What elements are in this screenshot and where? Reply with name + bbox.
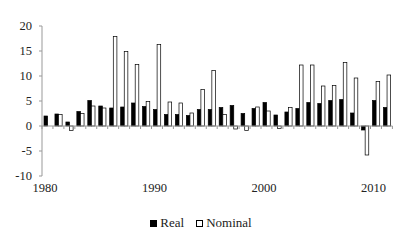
bar-real [307,103,311,127]
x-tick-label: 1980 [33,181,58,195]
bar-real [154,110,158,127]
x-tick-label: 1990 [142,181,167,195]
y-tick-label: 5 [26,94,32,108]
bar-real [99,106,103,126]
bar-real [230,106,234,127]
bar-nominal [124,52,128,127]
y-tick-label: 10 [20,69,33,83]
bar-nominal [135,65,139,127]
legend-label-real: Real [160,215,184,231]
bar-nominal [289,108,293,127]
bar-real [175,115,179,127]
legend-item-nominal: Nominal [196,215,252,231]
bar-nominal [223,115,227,127]
bar-nominal [91,106,95,126]
bar-real [164,115,168,127]
bar-real [208,110,212,127]
y-tick-label: -5 [22,144,32,158]
bar-nominal [190,113,194,126]
bars-group [44,37,391,156]
y-tick-label: 0 [26,119,32,133]
bar-nominal [365,126,369,155]
bar-nominal [102,108,106,126]
bar-real [274,115,278,126]
bar-real [296,109,300,127]
bar-nominal [157,45,161,127]
bar-real [285,112,289,126]
bar-nominal [80,114,84,127]
bar-nominal [70,126,74,131]
bar-real [340,100,344,127]
bar-real [373,101,377,127]
y-tick-label: -10 [15,169,32,183]
legend-swatch-real [150,220,157,227]
bar-nominal [59,115,63,127]
bar-nominal [343,63,347,127]
bar-real [383,108,387,127]
bar-nominal [310,65,314,126]
bar-nominal [212,71,216,127]
bar-real [44,116,48,126]
bar-real [351,113,355,126]
bar-nominal [376,82,380,127]
bar-nominal [245,126,249,131]
y-tick-label: 15 [20,44,33,58]
bar-real [318,104,322,127]
bar-nominal [387,75,391,126]
bar-real [77,112,81,127]
bar-real [121,107,125,126]
x-tick-label: 2010 [361,181,386,195]
bar-nominal [267,111,271,126]
bar-nominal [113,37,117,127]
bar-nominal [201,90,205,127]
bar-real [197,110,201,127]
bar-nominal [179,103,183,126]
bar-real [252,109,256,127]
bar-real [88,101,92,127]
legend-swatch-nominal [196,220,203,227]
bar-real [110,108,114,126]
bar-nominal [168,102,172,126]
legend-item-real: Real [150,215,184,231]
bar-real [241,114,245,127]
legend: Real Nominal [0,214,402,232]
bar-real [55,114,59,126]
bar-real [186,116,190,127]
bar-nominal [146,102,150,127]
bar-real [66,122,70,126]
bar-nominal [321,86,325,126]
bar-nominal [299,65,303,126]
x-tick-label: 2000 [252,181,277,195]
bar-real [329,101,333,127]
bar-real [132,103,136,126]
bar-real [263,103,267,127]
bar-nominal [256,107,260,126]
bar-nominal [354,78,358,126]
bar-chart: -10-5051015201980199020002010 [0,0,402,246]
legend-label-nominal: Nominal [206,215,252,231]
bar-real [362,126,366,130]
bar-nominal [332,86,336,127]
y-tick-label: 20 [20,19,33,33]
bar-real [219,108,223,127]
bar-real [143,107,147,127]
